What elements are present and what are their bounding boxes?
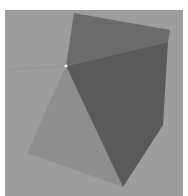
geometric-figure bbox=[0, 0, 188, 196]
center-dot bbox=[64, 64, 67, 67]
figure-svg bbox=[0, 0, 188, 196]
